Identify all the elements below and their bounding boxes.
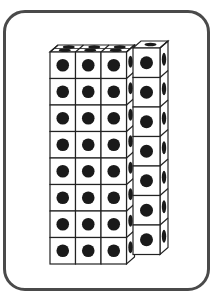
- main-cube-block: [50, 45, 135, 264]
- linking-cubes-figure: [0, 0, 216, 299]
- side-cube-column: [133, 41, 168, 255]
